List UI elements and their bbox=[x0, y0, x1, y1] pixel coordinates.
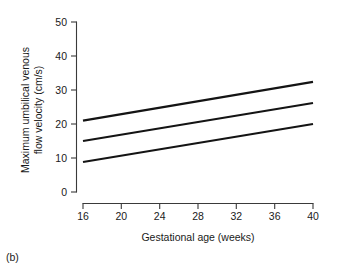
figure-panel: Maximum umbilical venous flow velocity (… bbox=[0, 0, 337, 267]
y-axis-title: Maximum umbilical venous flow velocity (… bbox=[19, 47, 44, 173]
y-tick-label-0: 0 bbox=[61, 186, 67, 198]
series-line-lower bbox=[83, 124, 313, 162]
y-tick-label-10: 10 bbox=[55, 152, 67, 164]
x-tick-label-16: 16 bbox=[77, 210, 89, 222]
y-tick-label-40: 40 bbox=[55, 50, 67, 62]
x-tick-label-28: 28 bbox=[192, 210, 204, 222]
x-axis-ticks: 16 20 24 28 32 36 40 bbox=[77, 204, 319, 223]
chart-canvas: Maximum umbilical venous flow velocity (… bbox=[0, 0, 337, 267]
y-tick-label-30: 30 bbox=[55, 84, 67, 96]
x-axis-title: Gestational age (weeks) bbox=[141, 231, 254, 243]
x-tick-label-36: 36 bbox=[269, 210, 281, 222]
y-tick-label-50: 50 bbox=[55, 16, 67, 28]
data-series-group bbox=[83, 82, 313, 162]
panel-caption: (b) bbox=[6, 251, 19, 263]
y-axis-title-line-1: Maximum umbilical venous bbox=[19, 47, 31, 173]
x-tick-label-20: 20 bbox=[115, 210, 127, 222]
x-tick-label-24: 24 bbox=[154, 210, 166, 222]
y-tick-label-20: 20 bbox=[55, 118, 67, 130]
y-axis-ticks: 0 10 20 30 40 50 bbox=[55, 16, 76, 198]
y-axis-title-line-2: flow velocity (cm/s) bbox=[32, 66, 44, 155]
series-line-median bbox=[83, 103, 313, 141]
series-line-upper bbox=[83, 82, 313, 121]
x-tick-label-40: 40 bbox=[307, 210, 319, 222]
x-tick-label-32: 32 bbox=[230, 210, 242, 222]
